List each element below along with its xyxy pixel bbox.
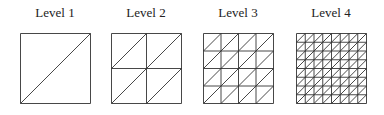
panel-label: Level 1 xyxy=(9,5,101,21)
triangle-mesh xyxy=(111,33,183,105)
panel-level-1: Level 1 xyxy=(9,0,101,115)
triangle-mesh xyxy=(20,33,92,105)
panel-level-3: Level 3 xyxy=(192,0,284,115)
panel-label: Level 4 xyxy=(285,5,377,21)
panel-level-2: Level 2 xyxy=(100,0,192,115)
panel-level-4: Level 4 xyxy=(285,0,377,115)
triangle-mesh xyxy=(203,33,275,105)
triangle-mesh xyxy=(296,33,368,105)
panel-label: Level 3 xyxy=(192,5,284,21)
panel-label: Level 2 xyxy=(100,5,192,21)
